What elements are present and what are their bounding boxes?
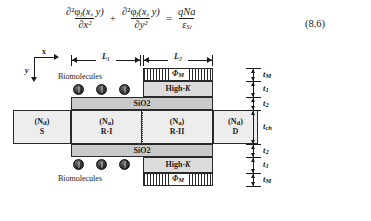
equation-plus-operator: +	[110, 12, 116, 24]
vdim-label-t1-bottom: t1	[263, 159, 269, 169]
term1-numerator: ∂²φ	[66, 6, 80, 17]
term2-denominator: ∂y²	[131, 18, 150, 31]
vdim-arrow-tch-up-icon	[251, 111, 255, 115]
y-axis-label: y	[25, 66, 29, 75]
vdim-label-t1-top: t1	[263, 83, 269, 93]
high-k-bottom-label: High-K	[166, 160, 191, 169]
vdim-segment-tch	[253, 110, 254, 144]
device-cross-section-diagram: x y L₁ L₂ ΦM High-K Biomolecules SiO2 (N	[0, 44, 371, 221]
oxide-layer-top: SiO2	[71, 97, 213, 110]
biomolecules-label-top: Biomolecules	[58, 72, 102, 81]
source-region: (Nd) S	[13, 110, 71, 144]
high-k-dielectric-top: High-K	[143, 81, 213, 97]
vdim-arrow-tM-bottom-down-icon	[251, 182, 255, 186]
term2-numerator: ∂²φ	[122, 6, 136, 17]
region-divider	[142, 112, 143, 142]
dimension-L2-right-cap	[212, 55, 213, 66]
vdim-label-tM-bottom: tM	[263, 174, 271, 184]
x-axis-line	[34, 57, 55, 58]
gate-metal-bottom: ΦM	[143, 173, 213, 186]
vdim-label-tM-top: tM	[263, 69, 271, 79]
source-region-label: (Nd) S	[35, 117, 50, 136]
equation-term-2: ∂²φj(x, y) ∂y²	[119, 6, 163, 31]
dimension-L1-right-arrow-icon	[135, 57, 140, 63]
region-2: (Na) R-II	[142, 110, 213, 144]
equation-term-1: ∂²φj(x, y) ∂x²	[63, 6, 107, 31]
dimension-L1: L₁	[71, 54, 141, 66]
equation-right-hand-side: qNa εSi	[175, 6, 199, 31]
dimension-L1-left-arrow-icon	[72, 57, 77, 63]
biomolecule-bottom-1	[73, 159, 84, 170]
equation-equals-operator: =	[166, 12, 172, 24]
rhs-denominator-subscript: Si	[186, 23, 191, 30]
y-axis-arrow-icon	[31, 77, 37, 82]
gate-metal-top: ΦM	[143, 68, 213, 81]
rhs-numerator: qNa	[175, 6, 199, 18]
dimension-L2-right-arrow-icon	[207, 57, 212, 63]
dimension-L1-label: L₁	[96, 51, 116, 61]
biomolecule-bottom-2	[96, 159, 107, 170]
vdim-arrow-t1-bottom-up-icon	[251, 158, 255, 162]
biomolecule-top-3	[119, 84, 130, 95]
vdim-arrow-tM-bottom-up-icon	[251, 174, 255, 178]
vdim-arrow-t2-top-up-icon	[251, 98, 255, 102]
dimension-L2-label: L₂	[168, 51, 188, 61]
biomolecule-top-2	[96, 84, 107, 95]
drain-region: (Nd) D	[213, 110, 258, 144]
biomolecule-top-1	[73, 84, 84, 95]
dimension-L2: L₂	[143, 54, 213, 66]
high-k-top-label: High-K	[166, 84, 191, 93]
gate-metal-bottom-label: ΦM	[169, 174, 187, 184]
term2-numerator-arg: (x, y)	[138, 6, 160, 17]
coordinate-axes: x y	[26, 54, 70, 86]
oxide-layer-bottom-label: SiO2	[134, 146, 151, 155]
biomolecules-label-bottom: Biomolecules	[58, 174, 102, 183]
term1-numerator-arg: (x, y)	[82, 6, 104, 17]
region-1: (Na) R-I	[71, 110, 142, 144]
x-axis-arrow-icon	[54, 54, 59, 60]
y-axis-line	[34, 57, 35, 78]
region-2-label: (Na) R-II	[170, 117, 185, 136]
vdim-tick-7	[246, 186, 261, 187]
equation-expression: ∂²φj(x, y) ∂x² + ∂²φj(x, y) ∂y² = qNa εS…	[62, 6, 200, 31]
vdim-arrow-t2-bottom-up-icon	[251, 145, 255, 149]
gate-metal-top-label: ΦM	[169, 69, 187, 79]
drain-region-label: (Nd) D	[228, 117, 243, 136]
oxide-layer-top-label: SiO2	[134, 99, 151, 108]
term1-denominator: ∂x²	[75, 18, 94, 31]
vdim-label-tch: tch	[263, 121, 272, 131]
vdim-label-t2-top: t2	[263, 98, 269, 108]
dimension-L2-left-arrow-icon	[144, 57, 149, 63]
oxide-layer-bottom: SiO2	[71, 144, 213, 157]
equation-block: ∂²φj(x, y) ∂x² + ∂²φj(x, y) ∂y² = qNa εS…	[0, 2, 371, 42]
x-axis-label: x	[42, 47, 46, 56]
biomolecule-bottom-3	[119, 159, 130, 170]
vdim-arrow-tM-top-up-icon	[251, 69, 255, 73]
region-1-label: (Na) R-I	[99, 117, 113, 136]
equation-number: (8.6)	[305, 18, 325, 29]
high-k-dielectric-bottom: High-K	[143, 157, 213, 173]
vdim-arrow-t1-top-up-icon	[251, 82, 255, 86]
dimension-L1-right-cap	[140, 55, 141, 66]
vdim-label-t2-bottom: t2	[263, 145, 269, 155]
